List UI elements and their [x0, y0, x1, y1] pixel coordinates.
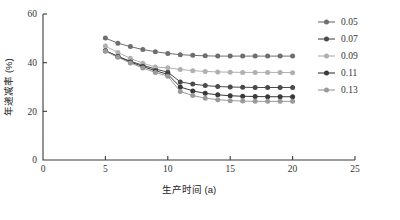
y-tick-label-40: 40 [28, 58, 38, 68]
legend-swatch-dot-0.09 [324, 54, 329, 59]
legend-item-0.09[interactable]: 0.09 [318, 51, 358, 61]
legend-group: 0.050.070.090.110.13 [318, 17, 358, 95]
data-point-0.05-10 [165, 51, 170, 56]
data-point-0.11-15 [228, 93, 233, 98]
data-point-0.13-19 [278, 99, 283, 104]
y-axis-title: 年递减率 (%) [3, 58, 14, 115]
x-tick-label-10: 10 [163, 164, 173, 174]
data-point-0.13-16 [240, 99, 245, 104]
data-point-0.07-13 [203, 83, 208, 88]
decline-rate-chart: 05101520250204060 0.050.070.090.110.13 生… [0, 0, 400, 220]
axis-lines [43, 14, 355, 160]
x-tick-label-25: 25 [350, 164, 360, 174]
series-line-0.05 [105, 38, 292, 56]
data-point-0.13-18 [265, 99, 270, 104]
data-point-0.05-9 [153, 49, 158, 54]
data-point-0.11-12 [190, 88, 195, 93]
data-point-0.07-20 [290, 85, 295, 90]
legend-swatch-dot-0.11 [324, 71, 329, 76]
data-point-0.13-10 [165, 74, 170, 79]
data-point-0.09-5 [103, 44, 108, 49]
data-point-0.09-17 [253, 70, 258, 75]
chart-canvas: 05101520250204060 0.050.070.090.110.13 生… [0, 0, 400, 220]
data-point-0.11-18 [265, 94, 270, 99]
data-point-0.05-5 [103, 36, 108, 41]
data-point-0.13-11 [178, 89, 183, 94]
data-point-0.05-7 [128, 44, 133, 49]
data-point-0.07-19 [278, 85, 283, 90]
data-point-0.09-15 [228, 70, 233, 75]
data-point-0.13-6 [115, 55, 120, 60]
axis-titles-group: 生产时间 (a)年递减率 (%) [3, 58, 216, 195]
data-point-0.13-20 [290, 99, 295, 104]
data-point-0.11-14 [215, 92, 220, 97]
data-point-0.11-13 [203, 91, 208, 96]
data-point-0.11-19 [278, 94, 283, 99]
legend-item-0.05[interactable]: 0.05 [318, 17, 358, 27]
data-point-0.07-18 [265, 85, 270, 90]
data-point-0.09-20 [290, 70, 295, 75]
data-point-0.09-13 [203, 69, 208, 74]
data-point-0.05-16 [240, 54, 245, 59]
legend-swatch-dot-0.05 [324, 20, 329, 25]
legend-item-0.11[interactable]: 0.11 [318, 68, 358, 78]
data-point-0.05-8 [140, 47, 145, 52]
data-point-0.13-14 [215, 97, 220, 102]
data-point-0.13-13 [203, 96, 208, 101]
data-point-0.07-15 [228, 85, 233, 90]
data-point-0.07-11 [178, 79, 183, 84]
data-point-0.11-20 [290, 94, 295, 99]
series-line-0.13 [105, 51, 292, 101]
data-point-0.05-19 [278, 54, 283, 59]
legend-swatch-dot-0.07 [324, 37, 329, 42]
data-point-0.09-19 [278, 70, 283, 75]
y-tick-label-60: 60 [28, 9, 38, 19]
data-point-0.07-17 [253, 85, 258, 90]
data-point-0.07-12 [190, 82, 195, 87]
x-tick-label-20: 20 [288, 164, 298, 174]
legend-label-0.09: 0.09 [341, 51, 358, 61]
data-point-0.05-6 [115, 41, 120, 46]
data-point-0.13-17 [253, 99, 258, 104]
data-point-0.05-18 [265, 54, 270, 59]
x-axis-title: 生产时间 (a) [162, 184, 216, 195]
x-tick-label-5: 5 [103, 164, 108, 174]
data-point-0.05-14 [215, 54, 220, 59]
data-point-0.13-8 [140, 66, 145, 71]
data-point-0.09-12 [190, 68, 195, 73]
legend-label-0.13: 0.13 [341, 85, 358, 95]
data-point-0.05-12 [190, 53, 195, 58]
legend-label-0.05: 0.05 [341, 17, 358, 27]
series-0.05 [103, 36, 295, 59]
data-point-0.13-5 [103, 49, 108, 54]
data-point-0.09-10 [165, 65, 170, 70]
data-point-0.09-18 [265, 70, 270, 75]
series-group [103, 36, 295, 104]
legend-label-0.07: 0.07 [341, 34, 358, 44]
y-tick-label-20: 20 [28, 107, 38, 117]
x-tick-label-15: 15 [225, 164, 235, 174]
data-point-0.07-14 [215, 84, 220, 89]
data-point-0.09-14 [215, 69, 220, 74]
data-point-0.05-15 [228, 54, 233, 59]
data-point-0.13-9 [153, 70, 158, 75]
data-point-0.09-16 [240, 70, 245, 75]
data-point-0.05-17 [253, 54, 258, 59]
data-point-0.13-15 [228, 98, 233, 103]
data-point-0.07-16 [240, 85, 245, 90]
data-point-0.11-16 [240, 94, 245, 99]
data-point-0.11-17 [253, 94, 258, 99]
data-point-0.05-13 [203, 53, 208, 58]
data-point-0.05-11 [178, 52, 183, 57]
data-point-0.09-11 [178, 67, 183, 72]
series-line-0.11 [105, 51, 292, 97]
data-point-0.13-12 [190, 93, 195, 98]
legend-label-0.11: 0.11 [341, 68, 358, 78]
series-line-0.09 [105, 46, 292, 73]
data-point-0.05-20 [290, 54, 295, 59]
x-tick-label-0: 0 [41, 164, 46, 174]
legend-item-0.13[interactable]: 0.13 [318, 85, 358, 95]
legend-item-0.07[interactable]: 0.07 [318, 34, 358, 44]
data-point-0.13-7 [128, 60, 133, 65]
legend-swatch-dot-0.13 [324, 88, 329, 93]
